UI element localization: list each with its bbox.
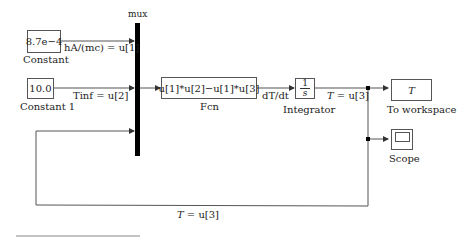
integrator-block[interactable]: 1 s	[295, 78, 315, 99]
signal-dtdt-label: dT/dt	[262, 90, 289, 101]
signal-out-label: T = u[3]	[327, 90, 369, 101]
fcn-expression: u[1]*u[2]−u[1]*u[3]	[159, 83, 260, 94]
scope-label: Scope	[389, 153, 420, 164]
signal-u2-label: Tinf = u[2]	[73, 90, 128, 101]
fcn-block[interactable]: u[1]*u[2]−u[1]*u[3]	[161, 77, 257, 99]
integrator-transfer-fn: 1 s	[300, 79, 310, 98]
fcn-label: Fcn	[200, 101, 219, 112]
feedback-signal-label: T = u[3]	[177, 209, 219, 220]
integrator-label: Integrator	[283, 104, 335, 115]
workspace-variable: T	[408, 85, 415, 96]
signal-u1-label: hA/(mc) = u[1]	[64, 42, 139, 53]
constant-value: 8.7e−4	[26, 36, 63, 47]
constant1-block[interactable]: 10.0	[27, 78, 54, 99]
to-workspace-block[interactable]: T	[391, 79, 432, 101]
mux-label: mux	[128, 9, 147, 19]
constant1-value: 10.0	[29, 83, 51, 94]
scope-icon	[395, 132, 410, 142]
to-workspace-label: To workspace	[387, 104, 457, 115]
constant-label: Constant	[23, 54, 69, 65]
signal-wires	[0, 0, 470, 237]
scope-block[interactable]	[391, 129, 413, 150]
constant-block[interactable]: 8.7e−4	[27, 30, 61, 53]
constant1-label: Constant 1	[20, 101, 75, 112]
